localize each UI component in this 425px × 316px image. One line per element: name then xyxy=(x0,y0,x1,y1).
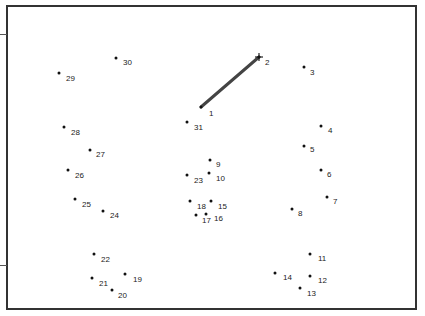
dot-26[interactable] xyxy=(67,169,70,172)
dot-label-18: 18 xyxy=(197,203,206,211)
dot-27[interactable] xyxy=(89,149,92,152)
dot-label-3: 3 xyxy=(310,69,314,77)
dot-21[interactable] xyxy=(91,277,94,280)
dot-label-25: 25 xyxy=(82,201,91,209)
dot-17[interactable] xyxy=(195,214,198,217)
dot-18[interactable] xyxy=(189,200,192,203)
dot-label-2: 2 xyxy=(265,59,269,67)
dot-12[interactable] xyxy=(309,275,312,278)
dot-label-1: 1 xyxy=(209,110,213,118)
dot-7[interactable] xyxy=(326,196,329,199)
dot-15[interactable] xyxy=(210,200,213,203)
dot-label-21: 21 xyxy=(99,280,108,288)
drawn-lines-layer xyxy=(0,0,425,316)
dot-28[interactable] xyxy=(63,126,66,129)
dot-31[interactable] xyxy=(186,121,189,124)
dot-3[interactable] xyxy=(303,66,306,69)
dot-30[interactable] xyxy=(115,57,118,60)
dot-label-16: 16 xyxy=(214,215,223,223)
dot-19[interactable] xyxy=(124,273,127,276)
dot-label-20: 20 xyxy=(118,292,127,300)
puzzle-canvas[interactable]: 1234567891011121314151617181920212223242… xyxy=(0,0,425,316)
dot-1[interactable] xyxy=(200,106,203,109)
dot-20[interactable] xyxy=(111,289,114,292)
dot-11[interactable] xyxy=(309,253,312,256)
dot-24[interactable] xyxy=(102,210,105,213)
dot-label-9: 9 xyxy=(216,161,220,169)
dot-label-8: 8 xyxy=(298,210,302,218)
dot-23[interactable] xyxy=(186,174,189,177)
dot-label-6: 6 xyxy=(327,171,331,179)
dot-label-23: 23 xyxy=(194,177,203,185)
dot-label-7: 7 xyxy=(333,198,337,206)
dot-label-15: 15 xyxy=(218,203,227,211)
dot-label-26: 26 xyxy=(75,172,84,180)
dot-14[interactable] xyxy=(274,272,277,275)
dot-label-29: 29 xyxy=(66,75,75,83)
dot-label-5: 5 xyxy=(310,146,314,154)
dot-4[interactable] xyxy=(320,125,323,128)
dot-25[interactable] xyxy=(74,198,77,201)
dot-label-22: 22 xyxy=(101,256,110,264)
segment-1-2 xyxy=(201,57,259,107)
dot-8[interactable] xyxy=(291,208,294,211)
dot-label-12: 12 xyxy=(318,277,327,285)
dot-label-28: 28 xyxy=(71,129,80,137)
dot-label-27: 27 xyxy=(96,151,105,159)
dot-22[interactable] xyxy=(93,253,96,256)
dot-label-17: 17 xyxy=(202,217,211,225)
dot-13[interactable] xyxy=(299,287,302,290)
dot-29[interactable] xyxy=(58,72,61,75)
dot-label-14: 14 xyxy=(283,274,292,282)
dot-5[interactable] xyxy=(303,145,306,148)
dot-10[interactable] xyxy=(208,172,211,175)
dot-label-11: 11 xyxy=(318,255,326,263)
dot-label-4: 4 xyxy=(328,127,332,135)
dot-label-13: 13 xyxy=(307,290,316,298)
dot-2[interactable] xyxy=(258,56,261,59)
dot-label-30: 30 xyxy=(123,59,132,67)
dot-label-31: 31 xyxy=(194,124,203,132)
dot-9[interactable] xyxy=(209,159,212,162)
dot-6[interactable] xyxy=(320,169,323,172)
dot-label-10: 10 xyxy=(216,175,225,183)
dot-label-24: 24 xyxy=(110,212,119,220)
dot-label-19: 19 xyxy=(133,276,142,284)
